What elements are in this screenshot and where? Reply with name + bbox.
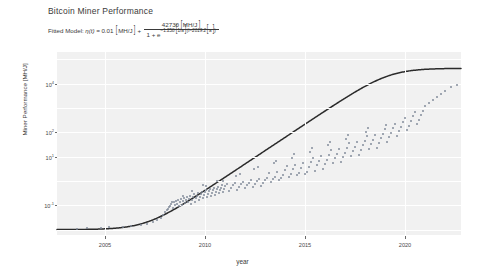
scatter-point <box>270 181 272 183</box>
scatter-point <box>408 125 410 127</box>
scatter-point <box>238 186 240 188</box>
scatter-point <box>382 133 384 135</box>
scatter-point <box>228 190 230 192</box>
scatter-point <box>400 126 402 128</box>
grid-line-vertical <box>205 52 206 235</box>
scatter-point <box>236 189 238 191</box>
grid-line-horizontal <box>57 132 461 133</box>
scatter-point <box>414 111 416 113</box>
scatter-point <box>372 139 374 141</box>
scatter-point <box>418 119 420 121</box>
y-axis-tick-label: 101 <box>0 153 54 161</box>
scatter-point <box>318 160 320 162</box>
scatter-point <box>396 135 398 137</box>
scatter-point <box>216 188 218 190</box>
scatter-point <box>273 162 275 164</box>
scatter-point <box>239 173 241 175</box>
y-axis-tick-label: 104 <box>0 80 54 88</box>
chart-figure: Bitcoin Miner Performance Fitted Model: … <box>0 0 485 277</box>
scatter-point <box>156 219 158 221</box>
scatter-point <box>404 117 406 119</box>
scatter-point <box>358 154 360 156</box>
scatter-point <box>326 159 328 161</box>
scatter-point <box>344 152 346 154</box>
scatter-point <box>350 155 352 157</box>
scatter-point <box>253 168 255 170</box>
scatter-point <box>198 199 200 201</box>
scatter-point <box>213 187 215 189</box>
scatter-point <box>100 227 102 229</box>
scatter-point <box>199 196 201 198</box>
scatter-point <box>160 217 162 219</box>
y-axis-tick-mark <box>55 84 58 85</box>
scatter-point <box>390 132 392 134</box>
formula-plus-sign: + <box>137 27 141 34</box>
scatter-point <box>266 177 268 179</box>
scatter-point <box>191 190 193 192</box>
formula-baseline-unit: MH/J <box>118 27 132 34</box>
scatter-point <box>354 146 356 148</box>
grid-line-horizontal <box>57 181 461 182</box>
scatter-point <box>234 182 236 184</box>
scatter-point <box>230 187 232 189</box>
scatter-point <box>214 194 216 196</box>
x-axis-tick-label: 2020 <box>399 242 411 248</box>
grid-line-horizontal <box>57 59 461 60</box>
formula-baseline-unit-group: [ MH/J ] <box>115 27 136 34</box>
x-axis-tick-label: 2010 <box>199 242 211 248</box>
scatter-point <box>196 195 198 197</box>
scatter-point <box>286 165 288 167</box>
scatter-point <box>275 160 277 162</box>
scatter-point <box>242 181 244 183</box>
grid-line-vertical <box>305 52 306 235</box>
x-axis-tick-mark <box>405 236 406 239</box>
x-axis-tick-label: 2015 <box>299 242 311 248</box>
formula-prefix: Fitted Model: <box>48 27 84 34</box>
grid-line-horizontal <box>57 157 461 158</box>
scatter-point <box>215 191 217 193</box>
scatter-point <box>274 176 276 178</box>
scatter-point <box>194 201 196 203</box>
x-axis-tick-label: 2005 <box>99 242 111 248</box>
scatter-point <box>220 187 222 189</box>
grid-line-horizontal <box>57 230 461 231</box>
scatter-point <box>130 225 132 227</box>
scatter-point <box>172 207 174 209</box>
fitted-model-formula: Fitted Model: η(t) = 0.01 [ MH/J ] + 427… <box>48 22 220 38</box>
formula-t-unit: a <box>209 28 212 33</box>
formula-denominator: 1 + e−1.258[1/a](t−2019.2[a]) <box>144 29 219 38</box>
scatter-point <box>386 141 388 143</box>
grid-line-horizontal <box>57 205 461 206</box>
y-axis-label: Miner Performance [MH/J] <box>21 40 28 160</box>
scatter-point <box>314 170 316 172</box>
scatter-point <box>122 226 124 228</box>
formula-baseline-value: 0.01 <box>101 27 113 34</box>
scatter-point <box>365 131 367 133</box>
scatter-point <box>312 157 314 159</box>
scatter-point <box>436 96 438 98</box>
formula-t-term: (t−2019.2 <box>187 28 207 33</box>
scatter-point <box>288 176 290 178</box>
scatter-point <box>235 175 237 177</box>
grid-line-vertical <box>405 52 406 235</box>
formula-denominator-base: 1 + e <box>147 31 161 38</box>
scatter-point <box>248 182 250 184</box>
scatter-point <box>346 147 348 149</box>
formula-lhs: η(t) = <box>85 27 100 34</box>
scatter-point <box>308 166 310 168</box>
scatter-point <box>394 123 396 125</box>
scatter-point <box>444 90 446 92</box>
fit-curve <box>57 52 461 235</box>
formula-rate-unit: 1/a <box>177 28 183 33</box>
chart-title: Bitcoin Miner Performance <box>48 6 153 16</box>
formula-exponent: −1.258[1/a](t−2019.2[a]) <box>160 28 215 33</box>
formula-fraction: 42730 [ MH/J ] 1 + e−1.258[1/a](t−2019.2… <box>144 22 219 38</box>
formula-close-paren: ) <box>214 28 216 33</box>
scatter-point <box>262 182 264 184</box>
scatter-point <box>280 177 282 179</box>
y-tick-exponent: -1 <box>50 201 54 206</box>
grid-line-vertical <box>105 52 106 235</box>
scatter-point <box>276 171 278 173</box>
scatter-point <box>167 208 169 210</box>
scatter-point <box>202 184 204 186</box>
